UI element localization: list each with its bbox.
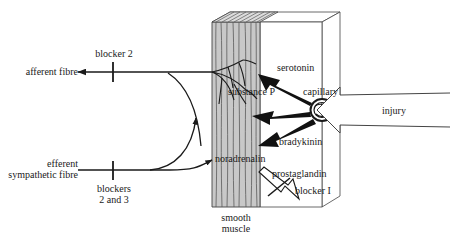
afferent-fibre-line [78,62,212,82]
label-blockers-2-and-3-line1: blockers [86,183,142,194]
label-serotonin: serotonin [277,62,314,73]
label-efferent-line1: efferent [4,158,78,169]
label-smooth-muscle-line1: smooth [205,212,267,223]
label-bradykinin: bradykinin [279,136,322,147]
label-afferent-fibre: afferent fibre [6,66,78,77]
label-blocker-1: blocker I [295,185,331,196]
efferent-sympathetic-fibre-line [78,73,212,180]
label-noradrenalin: noradrenalin [215,153,266,164]
label-blocker-2: blocker 2 [86,48,142,59]
label-prostaglandin: prostaglandin [272,168,326,179]
label-efferent-line2: sympathetic fibre [4,169,78,180]
label-substance-p: substance P [228,86,275,97]
label-smooth-muscle-line2: muscle [205,223,267,234]
label-capillary: capillary [303,86,338,97]
label-injury: injury [382,105,406,116]
label-blockers-2-and-3-line2: 2 and 3 [86,194,142,205]
diagram-canvas: afferent fibre blocker 2 efferent sympat… [0,0,450,249]
